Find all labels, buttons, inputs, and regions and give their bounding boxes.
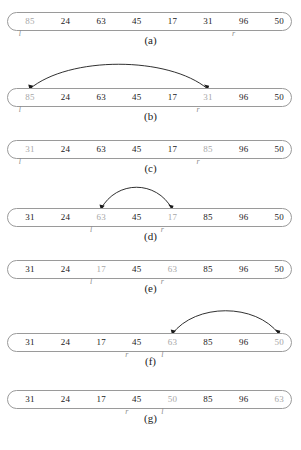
array-cell: 50 — [256, 208, 292, 227]
array-cell: 31 — [185, 12, 221, 31]
array-cell: 50 — [256, 88, 292, 107]
array-cell: 63 — [150, 333, 186, 352]
array-cell: 17 — [78, 333, 114, 352]
array-row: 3124634517859650 — [7, 140, 292, 159]
swap-arrow-f — [0, 301, 301, 337]
array-cell: 85 — [7, 12, 43, 31]
panel-caption: (e) — [0, 282, 301, 294]
panel-caption: (a) — [0, 34, 301, 46]
array-cell: 63 — [78, 208, 114, 227]
array-cell: 31 — [7, 333, 43, 352]
array-row: 3124174563859650 — [7, 260, 292, 279]
array-cell: 85 — [7, 88, 43, 107]
array-cell: 45 — [114, 88, 150, 107]
array-cell: 24 — [43, 88, 79, 107]
array-cell: 96 — [221, 12, 257, 31]
array-cell: 96 — [221, 260, 257, 279]
array-cell: 17 — [150, 12, 186, 31]
array-cell: 24 — [43, 260, 79, 279]
array-cell: 96 — [221, 333, 257, 352]
array-cell: 96 — [221, 390, 257, 409]
array-cell: 31 — [185, 88, 221, 107]
array-cell: 96 — [221, 88, 257, 107]
array-row: 8524634517319650 — [7, 88, 292, 107]
array-cell: 31 — [7, 390, 43, 409]
array-cell: 17 — [150, 208, 186, 227]
array-cell: 17 — [150, 88, 186, 107]
array-cell: 50 — [256, 12, 292, 31]
array-cell: 63 — [78, 88, 114, 107]
array-cell: 45 — [114, 12, 150, 31]
swap-arrow-d — [0, 178, 301, 212]
array-cell: 45 — [114, 333, 150, 352]
panel-caption: (c) — [0, 162, 301, 174]
array-cell: 96 — [221, 140, 257, 159]
array-cell: 63 — [150, 260, 186, 279]
array-cell: 85 — [185, 390, 221, 409]
array-cell: 63 — [78, 12, 114, 31]
panel-caption: (f) — [0, 355, 301, 367]
array-cell: 85 — [185, 208, 221, 227]
array-row: 3124174563859650 — [7, 333, 292, 352]
swap-arrow-b — [0, 54, 301, 92]
array-cell: 24 — [43, 12, 79, 31]
array-cell: 45 — [114, 208, 150, 227]
array-cell: 17 — [78, 260, 114, 279]
array-cell: 85 — [185, 140, 221, 159]
array-cell: 24 — [43, 333, 79, 352]
array-cell: 63 — [78, 140, 114, 159]
panel-caption: (g) — [0, 412, 301, 424]
array-cell: 50 — [256, 260, 292, 279]
array-cell: 17 — [78, 390, 114, 409]
array-row: 3124634517859650 — [7, 208, 292, 227]
array-cell: 45 — [114, 140, 150, 159]
array-cell: 50 — [256, 333, 292, 352]
array-cell: 96 — [221, 208, 257, 227]
array-cell: 45 — [114, 260, 150, 279]
array-cell: 31 — [7, 208, 43, 227]
array-row: 3124174550859663 — [7, 390, 292, 409]
array-cell: 85 — [185, 260, 221, 279]
array-cell: 63 — [256, 390, 292, 409]
panel-caption: (d) — [0, 230, 301, 242]
array-cell: 31 — [7, 260, 43, 279]
array-cell: 31 — [7, 140, 43, 159]
array-cell: 24 — [43, 390, 79, 409]
figure-container: 8524634517319650lr(a)8524634517319650lr(… — [0, 0, 301, 450]
panel-caption: (b) — [0, 110, 301, 122]
array-cell: 24 — [43, 208, 79, 227]
array-cell: 50 — [256, 140, 292, 159]
array-cell: 85 — [185, 333, 221, 352]
array-row: 8524634517319650 — [7, 12, 292, 31]
array-cell: 50 — [150, 390, 186, 409]
array-cell: 45 — [114, 390, 150, 409]
array-cell: 17 — [150, 140, 186, 159]
array-cell: 24 — [43, 140, 79, 159]
